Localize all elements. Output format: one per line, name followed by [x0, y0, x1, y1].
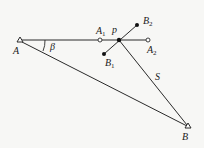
- label-B1: B1: [105, 57, 115, 70]
- angle-beta-arc: [43, 40, 45, 51]
- point-A2-open-circle-icon: [146, 38, 150, 42]
- label-B2: B2: [143, 15, 153, 28]
- label-S: S: [155, 71, 160, 82]
- point-p-dot-icon: [117, 38, 121, 42]
- label-A: A: [12, 45, 20, 56]
- label-A1: A1: [95, 25, 106, 38]
- survey-diagram: A β A1 p B2 A2 B1 S B: [0, 0, 204, 148]
- point-B2-dot-icon: [135, 23, 139, 27]
- label-p: p: [111, 24, 117, 35]
- point-B1-dot-icon: [102, 52, 106, 56]
- label-B: B: [182, 131, 188, 142]
- label-A2: A2: [146, 44, 157, 57]
- point-A1-open-circle-icon: [98, 38, 102, 42]
- label-beta: β: [49, 41, 55, 52]
